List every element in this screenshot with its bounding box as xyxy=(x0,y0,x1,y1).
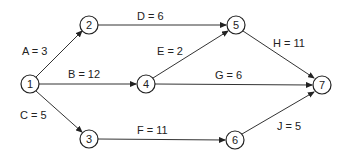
node-3: 3 xyxy=(80,130,98,148)
node-7-label: 7 xyxy=(319,79,325,91)
edge-label-g: G = 6 xyxy=(215,69,242,81)
node-6-label: 6 xyxy=(232,134,238,146)
edge-label-d: D = 6 xyxy=(137,10,164,22)
node-2-label: 2 xyxy=(86,19,92,31)
node-5: 5 xyxy=(227,16,245,34)
network-diagram: A = 3 B = 12 C = 5 D = 6 E = 2 F = 11 G … xyxy=(0,0,352,156)
node-7: 7 xyxy=(313,76,331,94)
edge-label-a: A = 3 xyxy=(22,45,47,57)
edge-g xyxy=(155,84,312,85)
node-4-label: 4 xyxy=(143,78,149,90)
edge-label-c: C = 5 xyxy=(20,109,47,121)
node-6: 6 xyxy=(226,131,244,149)
edge-label-e: E = 2 xyxy=(157,45,183,57)
edge-label-b: B = 12 xyxy=(68,68,100,80)
edge-f xyxy=(98,139,225,140)
node-5-label: 5 xyxy=(233,19,239,31)
node-1-label: 1 xyxy=(27,78,33,90)
node-2: 2 xyxy=(80,16,98,34)
node-4: 4 xyxy=(137,75,155,93)
edge-label-j: J = 5 xyxy=(277,120,301,132)
edge-label-f: F = 11 xyxy=(137,124,168,136)
edge-label-h: H = 11 xyxy=(273,37,305,49)
node-1: 1 xyxy=(21,75,39,93)
node-3-label: 3 xyxy=(86,133,92,145)
